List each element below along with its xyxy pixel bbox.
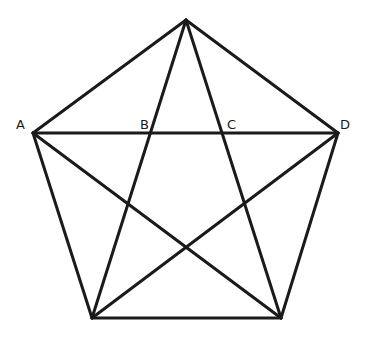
edge-left-bottom-left-line <box>33 133 92 318</box>
geometry-figure: A B C D <box>0 0 369 337</box>
diagonal-right-bottom-left-line <box>92 133 338 318</box>
edge-top-left-line <box>33 20 186 133</box>
edge-top-right-line <box>186 20 338 133</box>
vertex-label-b: B <box>140 118 149 131</box>
diagonal-top-bottom-left-line <box>92 20 186 318</box>
edge-right-bottom-right-line <box>281 133 338 318</box>
pentagram-drawing <box>0 0 369 337</box>
diagonal-top-bottom-right-line <box>186 20 281 318</box>
vertex-label-d: D <box>340 118 350 131</box>
vertex-label-c: C <box>227 118 236 131</box>
diagonal-left-bottom-right-line <box>33 133 281 318</box>
vertex-label-a: A <box>16 118 25 131</box>
